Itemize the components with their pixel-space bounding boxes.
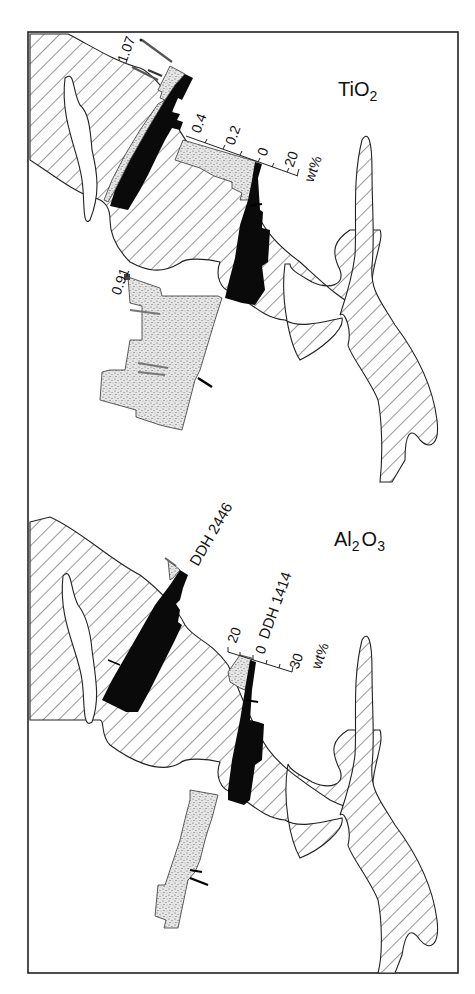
drill-hole-label-2446: DDH 2446 (186, 499, 236, 568)
al2o3-tick-30: 30 (286, 651, 306, 671)
drill-hole-label-1414: DDH 1414 (255, 569, 295, 641)
ddh1414-al2o3-stipple-lower (155, 790, 218, 928)
ddh2446-tio2-spike-1 (142, 40, 172, 62)
tio2-max-2446: 1.07 (114, 34, 138, 65)
al2o3-tick-0: 0 (252, 643, 270, 656)
geology-figure: 0.4 0.2 0 20 wt% 1.07 0.91 TiO2 (0, 0, 475, 994)
ddh1414-al2o3-black-spike-2 (190, 878, 208, 885)
tio2-panel-title: TiO2 (338, 78, 377, 104)
al2o3-tick-20: 20 (224, 625, 244, 645)
orebody-right-finger-tio2 (340, 136, 438, 482)
panel-al2o3: 20 0 30 wt% DDH 2446 DDH 1414 Al2O3 (30, 499, 438, 973)
tio2-unit: wt% (300, 154, 324, 185)
panel-tio2: 0.4 0.2 0 20 wt% 1.07 0.91 TiO2 (30, 34, 438, 482)
ddh1414-tio2-stipple-lower (100, 277, 222, 430)
tio2-tick-0: 0 (254, 145, 272, 158)
tio2-tick-0-4: 0.4 (188, 111, 210, 135)
ddh1414-tio2-black-spike (198, 378, 212, 387)
orebody-right-finger-al2o3 (340, 636, 438, 973)
al2o3-unit: wt% (307, 641, 331, 672)
tio2-tick-0-2: 0.2 (222, 123, 244, 147)
al2o3-panel-title: Al2O3 (334, 528, 385, 554)
tio2-tick-20: 20 (281, 149, 301, 169)
marker-dot (140, 39, 143, 42)
